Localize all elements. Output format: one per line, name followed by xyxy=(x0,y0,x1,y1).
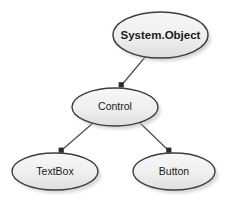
edge-object-to-control xyxy=(119,56,146,87)
node-label: Button xyxy=(159,165,190,177)
node-textbox[interactable]: TextBox xyxy=(12,153,101,194)
class-hierarchy-diagram: System.Object Control TextBox Button xyxy=(0,0,233,200)
node-system-object[interactable]: System.Object xyxy=(113,12,211,62)
arrowhead-square-icon xyxy=(59,148,64,153)
edge-line xyxy=(123,56,147,84)
edge-line xyxy=(63,123,94,150)
diagram-canvas: System.Object Control TextBox Button xyxy=(0,0,233,200)
node-button[interactable]: Button xyxy=(133,153,218,194)
node-label: Control xyxy=(98,100,132,112)
edge-control-to-textbox xyxy=(59,123,93,153)
edge-line xyxy=(140,123,168,150)
node-label: System.Object xyxy=(121,29,201,41)
arrowhead-square-icon xyxy=(119,82,124,87)
arrowhead-square-icon xyxy=(166,148,171,153)
node-label: TextBox xyxy=(36,165,74,177)
node-group: System.Object Control TextBox Button xyxy=(12,12,218,194)
edge-control-to-button xyxy=(140,123,171,153)
node-control[interactable]: Control xyxy=(72,88,161,130)
